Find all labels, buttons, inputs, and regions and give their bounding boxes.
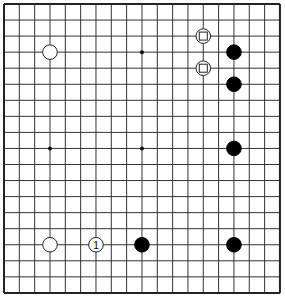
white-stone-shape (196, 29, 211, 44)
black-stone-shape (227, 77, 242, 92)
white-stone[interactable] (43, 45, 58, 60)
black-stone[interactable] (227, 237, 242, 252)
white-stone[interactable]: 1 (89, 237, 104, 252)
black-stone-shape (227, 237, 242, 252)
black-stone-shape (227, 141, 242, 156)
star-point (48, 146, 52, 150)
white-stone-shape (43, 237, 58, 252)
white-stone[interactable] (196, 61, 211, 76)
star-point (140, 146, 144, 150)
white-stone-shape (43, 45, 58, 60)
move-number-label: 1 (93, 239, 99, 251)
black-stone[interactable] (227, 141, 242, 156)
black-stone[interactable] (135, 237, 150, 252)
black-stone[interactable] (227, 77, 242, 92)
go-board: 1 (0, 0, 285, 300)
black-stone-shape (227, 45, 242, 60)
black-stone[interactable] (227, 45, 242, 60)
white-stone[interactable] (43, 237, 58, 252)
star-point (140, 50, 144, 54)
black-stone-shape (135, 237, 150, 252)
white-stone-shape (196, 61, 211, 76)
white-stone[interactable] (196, 29, 211, 44)
